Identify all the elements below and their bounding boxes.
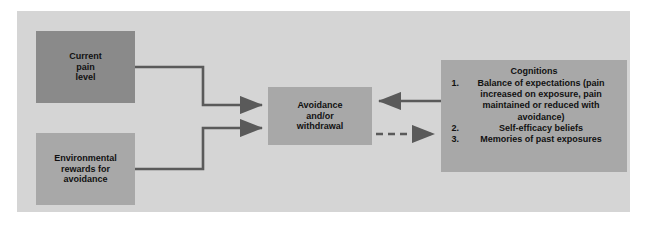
cognitions-item-number: 2. — [448, 123, 459, 134]
cognitions-item-text: Memories of past exposures — [480, 134, 602, 144]
node-environmental-rewards: Environmental rewards for avoidance — [36, 133, 135, 205]
node-current-pain-level: Current pain level — [36, 31, 135, 103]
cognitions-item-text: Balance of expectations (pain increased … — [477, 78, 604, 122]
cognitions-item-number: 1. — [448, 78, 459, 89]
node-environmental-rewards-label: Environmental rewards for avoidance — [54, 153, 117, 185]
node-cognitions: Cognitions 1. Balance of expectations (p… — [441, 60, 627, 172]
node-avoidance-withdrawal: Avoidance and/or withdrawal — [268, 87, 372, 145]
cognitions-list-item: 3. Memories of past exposures — [448, 134, 620, 145]
cognitions-list-item: 2. Self-efficacy beliefs — [448, 123, 620, 134]
cognitions-list: 1. Balance of expectations (pain increas… — [448, 78, 620, 146]
node-avoidance-withdrawal-label: Avoidance and/or withdrawal — [297, 100, 344, 132]
node-current-pain-level-label: Current pain level — [69, 51, 102, 83]
cognitions-item-number: 3. — [448, 134, 459, 145]
cognitions-title: Cognitions — [448, 66, 620, 77]
diagram-figure: Current pain level Environmental rewards… — [0, 0, 653, 236]
cognitions-list-item: 1. Balance of expectations (pain increas… — [448, 78, 620, 123]
cognitions-item-text: Self-efficacy beliefs — [499, 123, 583, 133]
